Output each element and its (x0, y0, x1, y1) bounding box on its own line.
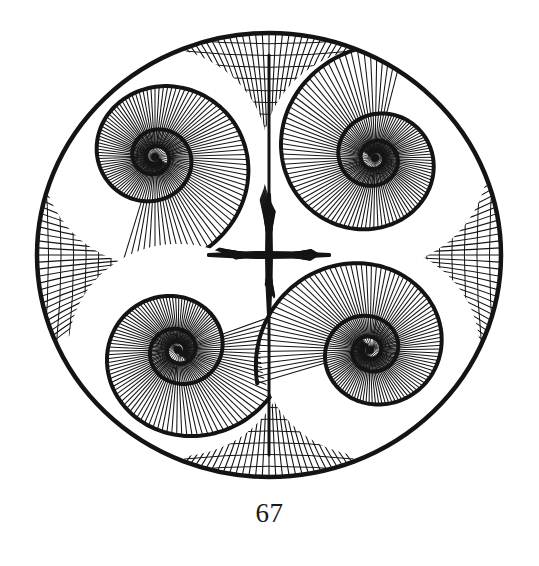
page-number: 67 (0, 498, 539, 529)
spiral-curve-stitching-figure (0, 0, 539, 500)
spiral-top-left (42, 47, 269, 270)
book-page: 67 (0, 0, 539, 566)
spiral-layer (42, 44, 489, 456)
